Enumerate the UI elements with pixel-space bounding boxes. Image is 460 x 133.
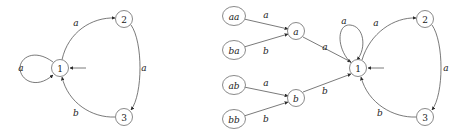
node-ab[interactable]: ab [223, 76, 246, 95]
edge-label-bb-b: b [263, 114, 269, 124]
node-3-right[interactable]: 3 [417, 109, 434, 126]
node-label: a [293, 27, 298, 37]
node-1-left[interactable]: 1 [52, 60, 69, 77]
edge-2-3-a-right [432, 25, 441, 110]
node-label: 2 [422, 15, 428, 25]
edge-3-1-b [62, 77, 115, 117]
node-bb[interactable]: bb [223, 110, 246, 129]
right-automaton: a b a b a b a a a [223, 7, 449, 129]
edge-label-1-2-a: a [73, 18, 78, 28]
edge-1-1-a-right [340, 25, 363, 63]
node-label: 3 [121, 113, 127, 123]
figure-canvas: a a a b 1 2 [0, 0, 460, 133]
node-2-left[interactable]: 2 [116, 11, 133, 28]
node-1-right[interactable]: 1 [350, 60, 367, 77]
edge-aa-a [244, 19, 288, 29]
node-2-right[interactable]: 2 [417, 11, 434, 28]
edge-label-a-1: a [322, 42, 327, 52]
edge-label-1-1-a: a [18, 63, 23, 73]
node-b[interactable]: b [288, 90, 305, 107]
edge-1-1-a [20, 55, 53, 82]
automata-figure: a a a b 1 2 [0, 0, 460, 133]
edge-2-3-a [131, 25, 140, 110]
edge-ab-b [244, 87, 288, 96]
node-label: ba [228, 46, 239, 56]
node-label: 1 [355, 64, 361, 74]
node-3-left[interactable]: 3 [116, 109, 133, 126]
node-aa[interactable]: aa [223, 7, 246, 26]
edge-label-2-3-a: a [141, 63, 146, 73]
node-label: 2 [121, 15, 127, 25]
edge-label-ba-a: b [263, 46, 269, 56]
edge-label-2-3-a-right: a [443, 63, 448, 73]
edge-label-1-2-a-right: a [373, 18, 378, 28]
edge-3-1-b-right [361, 77, 416, 117]
edge-label-3-1-b: b [73, 108, 79, 118]
left-automaton: a a a b 1 2 [18, 11, 146, 126]
node-label: bb [228, 115, 240, 125]
node-a[interactable]: a [288, 23, 305, 40]
node-label: b [293, 94, 299, 104]
node-label: aa [229, 12, 240, 22]
node-label: ab [228, 81, 239, 91]
edge-1-2-a-right [362, 18, 416, 60]
edge-label-b-1: b [322, 86, 328, 96]
edge-label-3-1-b-right: b [377, 108, 383, 118]
edge-label-aa-a: a [263, 10, 268, 20]
node-ba[interactable]: ba [223, 41, 246, 60]
node-label: 3 [422, 113, 428, 123]
node-label: 1 [57, 64, 63, 74]
edge-1-2-a [62, 18, 115, 60]
edge-label-ab-b: a [263, 78, 268, 88]
edge-label-1-1-a-right: a [341, 16, 346, 26]
